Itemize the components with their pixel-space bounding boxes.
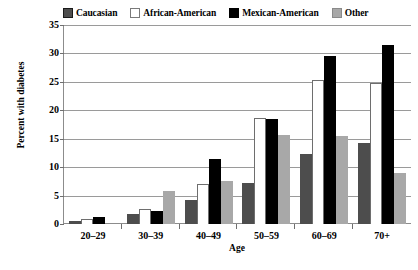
bar-group-bars	[64, 25, 122, 224]
bar-other-40-49	[221, 181, 233, 224]
y-axis-tick-label: 0	[35, 218, 59, 229]
legend-label-mexican-american: Mexican-American	[242, 8, 318, 18]
y-axis-label: Percent with diabetes	[16, 40, 26, 170]
bar-group-bars	[237, 25, 295, 224]
bar-group: 50–59	[237, 25, 295, 224]
bar-mexican-american-30-39	[151, 211, 163, 224]
legend-swatch-caucasian-icon	[63, 8, 73, 18]
legend-label-other: Other	[345, 8, 369, 18]
bar-caucasian-40-49	[185, 200, 197, 224]
y-axis-tick-mark	[60, 224, 64, 225]
bar-caucasian-20-29	[69, 221, 81, 224]
bar-caucasian-50-59	[242, 183, 254, 224]
x-axis-tick-label: 70+	[353, 230, 411, 241]
bar-group: 40–49	[180, 25, 238, 224]
x-axis-tick-label: 50–59	[237, 230, 295, 241]
legend-swatch-other-icon	[332, 8, 342, 18]
bar-mexican-american-60-69	[324, 56, 336, 224]
y-axis-tick-label: 20	[35, 105, 59, 116]
x-axis-tick-mark	[294, 224, 295, 229]
bar-group-bars	[180, 25, 238, 224]
bar-african-american-60-69	[312, 80, 324, 224]
x-axis-tick-mark	[179, 224, 180, 229]
bar-other-70+	[394, 173, 406, 224]
x-axis-tick-label: 30–39	[122, 230, 180, 241]
bar-group: 20–29	[64, 25, 122, 224]
bar-other-50-59	[278, 135, 290, 224]
x-axis-tick-label: 60–69	[295, 230, 353, 241]
bar-groups: 20–2930–3940–4950–5960–6970+	[64, 25, 411, 224]
bar-caucasian-30-39	[127, 214, 139, 224]
bar-group: 60–69	[295, 25, 353, 224]
y-axis-tick-label: 10	[35, 161, 59, 172]
legend-entry-african-american: African-American	[130, 8, 216, 18]
bar-other-60-69	[336, 136, 348, 224]
bar-group-bars	[295, 25, 353, 224]
bar-group-bars	[122, 25, 180, 224]
bar-african-american-30-39	[139, 209, 151, 224]
y-axis-tick-label: 15	[35, 133, 59, 144]
legend-entry-caucasian: Caucasian	[63, 8, 117, 18]
bar-group: 70+	[353, 25, 411, 224]
x-axis-title: Age	[63, 243, 411, 253]
y-axis-tick-label: 5	[35, 190, 59, 201]
bar-mexican-american-40-49	[209, 159, 221, 224]
legend-entry-mexican-american: Mexican-American	[229, 8, 318, 18]
bar-mexican-american-70+	[382, 45, 394, 224]
chart-legend: Caucasian African-American Mexican-Ameri…	[63, 5, 413, 21]
y-axis-tick-label: 35	[35, 19, 59, 30]
legend-swatch-mexican-american-icon	[229, 8, 239, 18]
bar-group: 30–39	[122, 25, 180, 224]
bar-caucasian-60-69	[300, 154, 312, 224]
x-axis-tick-mark	[121, 224, 122, 229]
x-axis-tick-label: 40–49	[180, 230, 238, 241]
x-axis-tick-mark	[236, 224, 237, 229]
bar-caucasian-70+	[358, 143, 370, 224]
bar-other-30-39	[163, 191, 175, 224]
figure-caption	[24, 265, 404, 270]
bar-african-american-40-49	[197, 184, 209, 224]
legend-entry-other: Other	[332, 8, 369, 18]
legend-label-caucasian: Caucasian	[76, 8, 117, 18]
bar-african-american-70+	[370, 83, 382, 224]
bar-chart: Caucasian African-American Mexican-Ameri…	[0, 0, 418, 270]
y-axis-tick-label: 30	[35, 48, 59, 59]
legend-swatch-african-american-icon	[130, 8, 140, 18]
bar-african-american-20-29	[81, 219, 93, 224]
x-axis-tick-label: 20–29	[64, 230, 122, 241]
y-axis-tick-label: 25	[35, 76, 59, 87]
x-axis-tick-mark	[352, 224, 353, 229]
bar-group-bars	[353, 25, 411, 224]
plot-area: 35302520151050 20–2930–3940–4950–5960–69…	[63, 25, 411, 224]
bar-mexican-american-20-29	[93, 217, 105, 224]
legend-label-african-american: African-American	[143, 8, 216, 18]
bar-mexican-american-50-59	[266, 119, 278, 224]
bar-african-american-50-59	[254, 118, 266, 224]
